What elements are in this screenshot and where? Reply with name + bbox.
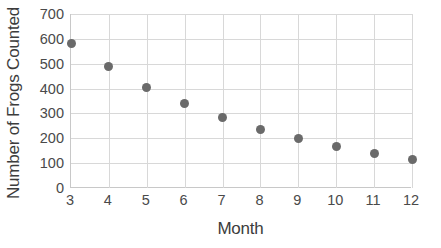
x-axis-tick-labels: 3456789101112 xyxy=(70,193,411,213)
y-axis-tick-label: 100 xyxy=(24,156,64,170)
x-axis-tick-label: 7 xyxy=(202,193,242,208)
gridline-horizontal xyxy=(71,14,412,15)
x-axis-tick-label: 6 xyxy=(164,193,204,208)
gridline-vertical xyxy=(260,14,261,188)
x-axis-tick-label: 9 xyxy=(277,193,317,208)
y-axis-tick-label: 400 xyxy=(24,82,64,96)
data-point xyxy=(67,39,76,48)
gridline-vertical xyxy=(336,14,337,188)
gridline-horizontal xyxy=(71,138,412,139)
gridline-horizontal xyxy=(71,39,412,40)
data-point xyxy=(104,62,113,71)
y-axis-tick-label: 200 xyxy=(24,131,64,145)
x-axis-tick-label: 12 xyxy=(391,193,431,208)
data-point xyxy=(256,125,265,134)
gridline-vertical xyxy=(298,14,299,188)
y-axis-tick-labels: 0100200300400500600700 xyxy=(22,14,64,188)
y-axis-tick-label: 500 xyxy=(24,57,64,71)
x-axis-tick-label: 8 xyxy=(239,193,279,208)
y-axis-title-text: Number of Frogs Counted xyxy=(4,7,24,199)
data-point xyxy=(180,99,189,108)
y-axis-tick-label: 700 xyxy=(24,7,64,21)
gridline-vertical xyxy=(147,14,148,188)
plot-area xyxy=(70,14,411,188)
x-axis-title: Month xyxy=(70,219,411,239)
data-point xyxy=(370,149,379,158)
data-point xyxy=(294,134,303,143)
gridline-horizontal xyxy=(71,163,412,164)
x-axis-tick-label: 5 xyxy=(126,193,166,208)
data-point xyxy=(142,83,151,92)
gridline-horizontal xyxy=(71,64,412,65)
gridline-vertical xyxy=(109,14,110,188)
y-axis-tick-label: 300 xyxy=(24,106,64,120)
x-axis-tick-label: 4 xyxy=(88,193,128,208)
scatter-chart-figure: Number of Frogs Counted 0100200300400500… xyxy=(0,0,441,248)
gridline-vertical xyxy=(374,14,375,188)
data-point xyxy=(218,113,227,122)
gridline-horizontal xyxy=(71,89,412,90)
gridline-horizontal xyxy=(71,113,412,114)
data-point xyxy=(408,155,417,164)
y-axis-tick-label: 600 xyxy=(24,32,64,46)
data-point xyxy=(332,142,341,151)
x-axis-tick-label: 3 xyxy=(50,193,90,208)
x-axis-tick-label: 10 xyxy=(315,193,355,208)
x-axis-tick-label: 11 xyxy=(353,193,393,208)
gridline-vertical xyxy=(223,14,224,188)
